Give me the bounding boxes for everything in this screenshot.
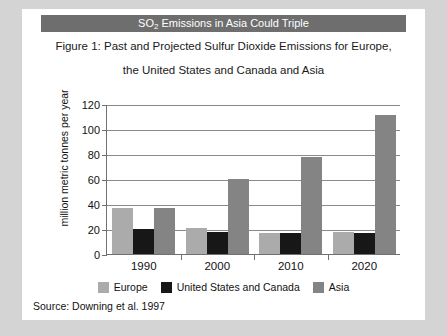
legend-entry: Europe bbox=[98, 281, 148, 293]
bar bbox=[228, 179, 249, 254]
legend-swatch-icon bbox=[161, 282, 172, 293]
y-tick-label: 80 bbox=[58, 149, 100, 161]
bar-group bbox=[181, 105, 255, 254]
y-tick-label: 60 bbox=[58, 174, 100, 186]
bar bbox=[133, 229, 154, 254]
y-tick-label: 40 bbox=[58, 199, 100, 211]
bar-group bbox=[328, 105, 402, 254]
x-tick-label: 2020 bbox=[334, 260, 394, 272]
figure-caption: Figure 1: Past and Projected Sulfur Diox… bbox=[34, 37, 413, 79]
legend-swatch-icon bbox=[98, 282, 109, 293]
bar bbox=[333, 232, 354, 255]
chart-plot-panel: million metric tonnes per year 020406080… bbox=[38, 93, 409, 279]
x-tick-label: 2010 bbox=[261, 260, 321, 272]
banner-text-before: SO bbox=[138, 17, 154, 29]
x-tick-mark bbox=[328, 254, 329, 260]
bar bbox=[354, 233, 375, 254]
x-tick-mark bbox=[181, 254, 182, 260]
x-tick-mark bbox=[254, 254, 255, 260]
bar bbox=[259, 233, 280, 254]
legend-label: Europe bbox=[114, 281, 148, 293]
legend-entry: Asia bbox=[313, 281, 349, 293]
bar bbox=[112, 208, 133, 254]
legend-swatch-icon bbox=[313, 282, 324, 293]
x-tick-label: 1990 bbox=[114, 260, 174, 272]
legend-entry: United States and Canada bbox=[161, 281, 300, 293]
bar bbox=[186, 228, 207, 254]
banner-text-after: Emissions in Asia Could Triple bbox=[158, 17, 308, 29]
figure-card: SO2 Emissions in Asia Could Triple Figur… bbox=[22, 9, 425, 320]
bar bbox=[154, 208, 175, 254]
caption-line-1: Figure 1: Past and Projected Sulfur Diox… bbox=[34, 37, 413, 55]
source-note: Source: Downing et al. 1997 bbox=[33, 300, 165, 312]
bar bbox=[375, 115, 396, 254]
y-tick-label: 20 bbox=[58, 224, 100, 236]
bar bbox=[280, 233, 301, 254]
figure-banner-title: SO2 Emissions in Asia Could Triple bbox=[41, 15, 406, 32]
y-tick-mark bbox=[102, 255, 107, 256]
chart-legend: EuropeUnited States and CanadaAsia bbox=[22, 281, 425, 293]
bar-group bbox=[254, 105, 328, 254]
plot-area: 0204060801001201990200020102020 bbox=[106, 105, 400, 255]
y-tick-label: 100 bbox=[58, 124, 100, 136]
bar bbox=[301, 157, 322, 255]
caption-line-2: the United States and Canada and Asia bbox=[34, 61, 413, 79]
legend-label: United States and Canada bbox=[177, 281, 300, 293]
x-tick-label: 2000 bbox=[187, 260, 247, 272]
legend-label: Asia bbox=[329, 281, 349, 293]
y-tick-label: 0 bbox=[58, 249, 100, 261]
bar-group bbox=[107, 105, 181, 254]
bar bbox=[207, 232, 228, 255]
y-tick-label: 120 bbox=[58, 99, 100, 111]
